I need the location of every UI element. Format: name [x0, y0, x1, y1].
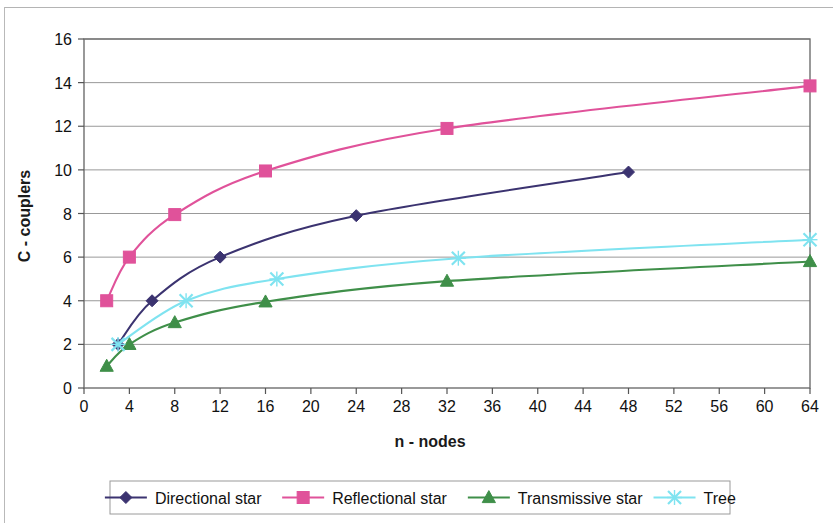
legend-label: Tree [704, 490, 736, 507]
legend-label: Transmissive star [518, 490, 643, 507]
y-axis-ticks [78, 39, 84, 388]
y-tick-label: 10 [54, 162, 72, 179]
y-tick-label: 0 [63, 380, 72, 397]
chart-canvas: 0481216202428323640444852566064 02468101… [0, 0, 833, 523]
data-point-marker [451, 251, 466, 266]
x-tick-label: 32 [438, 398, 456, 415]
x-tick-label: 40 [529, 398, 547, 415]
x-tick-label: 60 [756, 398, 774, 415]
x-axis-title: n - nodes [394, 433, 465, 450]
data-point-marker [350, 210, 362, 222]
y-tick-label: 16 [54, 31, 72, 48]
data-series-group [100, 80, 817, 371]
x-tick-label: 8 [170, 398, 179, 415]
legend-item-reflectional-star[interactable]: Reflectional star [282, 490, 447, 507]
series-reflectional-star [101, 80, 816, 307]
data-point-marker [169, 209, 181, 221]
x-tick-label: 44 [574, 398, 592, 415]
y-tick-label: 8 [63, 206, 72, 223]
x-tick-label: 64 [801, 398, 819, 415]
data-point-marker [297, 492, 309, 504]
x-tick-label: 48 [620, 398, 638, 415]
data-point-marker [179, 293, 194, 308]
x-tick-label: 12 [211, 398, 229, 415]
series-directional-star [112, 166, 634, 350]
y-tick-label: 4 [63, 293, 72, 310]
series-line [107, 86, 810, 301]
chart-page: 0481216202428323640444852566064 02468101… [0, 0, 833, 523]
y-tick-label: 12 [54, 118, 72, 135]
y-tick-label: 6 [63, 249, 72, 266]
y-axis-title: C - couplers [16, 170, 33, 263]
series-tree [111, 232, 818, 352]
x-tick-label: 24 [347, 398, 365, 415]
data-point-marker [269, 271, 284, 286]
y-tick-label: 2 [63, 336, 72, 353]
data-point-marker [803, 232, 818, 247]
data-point-marker [803, 255, 816, 267]
data-point-marker [804, 80, 816, 92]
data-point-marker [111, 337, 126, 352]
data-point-marker [123, 251, 135, 263]
data-point-marker [441, 122, 453, 134]
x-tick-label: 56 [710, 398, 728, 415]
series-line [118, 172, 628, 344]
data-point-marker [101, 295, 113, 307]
x-tick-label: 20 [302, 398, 320, 415]
data-point-marker [667, 490, 682, 505]
legend: Directional starReflectional starTransmi… [105, 481, 736, 514]
x-axis-ticks [84, 388, 810, 394]
data-point-marker [260, 165, 272, 177]
x-tick-label: 16 [257, 398, 275, 415]
data-point-marker [214, 251, 226, 263]
x-tick-label: 4 [125, 398, 134, 415]
series-line [107, 261, 810, 366]
legend-label: Directional star [155, 490, 262, 507]
x-tick-label: 28 [393, 398, 411, 415]
x-axis-tick-labels: 0481216202428323640444852566064 [80, 398, 819, 415]
y-tick-label: 14 [54, 75, 72, 92]
series-transmissive-star [100, 255, 817, 372]
x-tick-label: 36 [483, 398, 501, 415]
data-point-marker [623, 166, 635, 178]
x-tick-label: 52 [665, 398, 683, 415]
y-axis-tick-labels: 0246810121416 [54, 31, 72, 397]
legend-label: Reflectional star [332, 490, 447, 507]
x-tick-label: 0 [80, 398, 89, 415]
line-chart: 0481216202428323640444852566064 02468101… [0, 0, 833, 523]
